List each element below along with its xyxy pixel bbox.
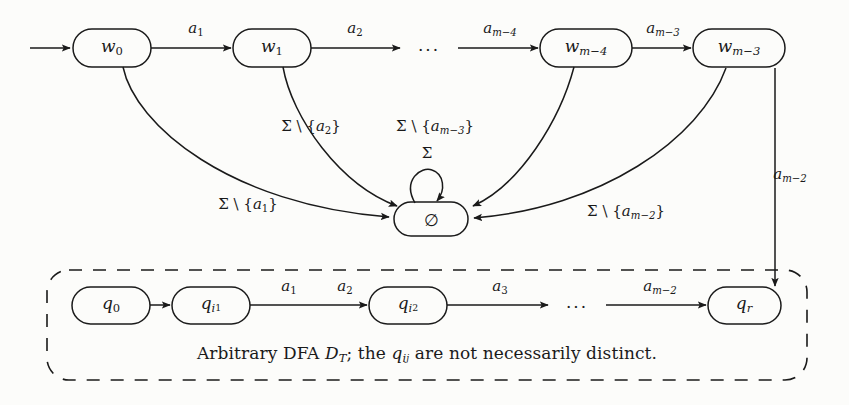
state-label-qi1: qi1: [201, 295, 222, 315]
edge-label-sigma-minus-a2: Σ \ {a2}: [281, 119, 341, 136]
top-row-ellipsis: ···: [418, 42, 440, 59]
state-label-qi2: qi2: [398, 295, 419, 315]
self-loop-sigma: [411, 169, 443, 203]
edge-label-a2: a2: [347, 21, 362, 38]
edge-label-am2-vertical: am−2: [773, 167, 807, 184]
edge-label-b-am2: am−2: [643, 279, 677, 296]
state-label-wm3: wm−3: [718, 38, 761, 58]
state-label-qr: qr: [736, 295, 752, 315]
edge-label-sigma-loop: Σ: [422, 146, 433, 161]
dfa-box-caption: Arbitrary DFA DT; the qij are not necess…: [197, 345, 657, 365]
state-label-w0: w0: [101, 38, 123, 58]
state-label-q0: q0: [102, 295, 120, 315]
edge-label-b-a1: a1: [281, 279, 296, 296]
edge-label-b-a3: a3: [492, 279, 507, 296]
curve-wm4-sink: [473, 67, 574, 206]
state-label-w1: w1: [261, 38, 283, 58]
edge-label-sigma-minus-am3: Σ \ {am−3}: [396, 119, 474, 136]
edge-label-sigma-minus-a1: Σ \ {a1}: [218, 197, 278, 214]
edge-label-am3: am−3: [646, 21, 680, 38]
edge-label-sigma-minus-am2: Σ \ {am−2}: [587, 204, 665, 221]
state-label-empty-set: ∅: [424, 212, 439, 229]
bottom-row-ellipsis: ···: [566, 299, 588, 316]
dfa-figure: w0 w1 wm−4 wm−3 a1 a2 am−4 am−3 ··· ∅ Σ …: [0, 0, 849, 405]
curve-wm3-sink: [474, 68, 726, 218]
edge-label-am4: am−4: [483, 21, 517, 38]
state-label-wm4: wm−4: [565, 38, 608, 58]
edge-label-b-a2: a2: [337, 279, 352, 296]
edge-label-a1: a1: [188, 21, 203, 38]
